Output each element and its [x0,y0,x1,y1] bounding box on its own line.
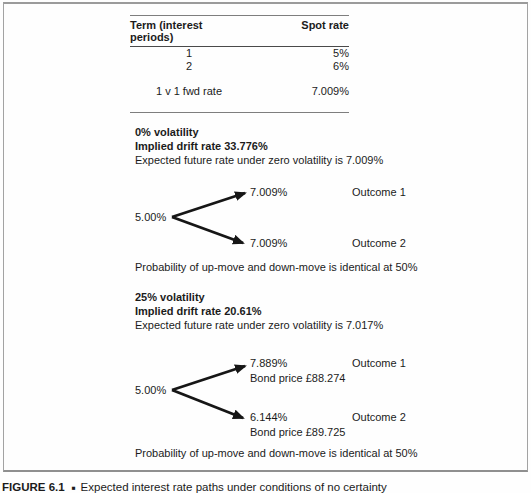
figure-page: Term (interest periods) Spot rate 1 5% 2… [0,0,531,493]
up-branch-arrow [172,366,245,390]
figure-caption: FIGURE 6.1 ■ Expected interest rate path… [2,481,387,493]
term-value: 1 [130,47,248,60]
square-bullet-icon: ■ [72,482,76,493]
vol0-expected: Expected future rate under zero volatili… [135,154,383,167]
vol0-up-outcome: Outcome 1 [352,186,406,199]
vol0-tree-arrows [166,185,254,249]
vol0-down-rate: 7.009% [250,237,287,250]
vol0-up-rate: 7.009% [250,186,287,199]
down-branch-arrow [172,390,243,418]
table-row-forward-rate: 1 v 1 fwd rate 7.009% [130,85,349,98]
table-row: 2 6% [130,60,349,73]
table-row: 1 5% [130,47,349,60]
vol0-drift: Implied drift rate 33.776% [135,140,268,153]
vol0-probability: Probability of up-move and down-move is … [135,261,417,274]
vol25-down-outcome: Outcome 2 [352,411,406,424]
vol0-root-rate: 5.00% [135,211,166,224]
table-bottom-rule [130,112,349,113]
vol25-title: 25% volatility [135,291,205,304]
figure-caption-text: Expected interest rate paths under condi… [81,481,387,493]
vol25-down-bond-price: Bond price £89.725 [250,426,345,439]
spot-rate-value: 5% [248,47,349,60]
term-value: 2 [130,60,248,73]
col-header-term: Term (interest periods) [130,19,248,43]
vol0-title: 0% volatility [135,126,199,139]
table-header-row: Term (interest periods) Spot rate [130,16,349,47]
up-branch-arrow [172,193,245,217]
vol25-down-rate: 6.144% [250,411,287,424]
col-header-spot-rate: Spot rate [248,19,349,31]
vol0-down-outcome: Outcome 2 [352,237,406,250]
vol25-up-rate: 7.889% [250,357,287,370]
vol25-drift: Implied drift rate 20.61% [135,305,262,318]
forward-rate-label: 1 v 1 fwd rate [130,85,248,98]
vol25-tree-arrows [166,358,254,422]
vol25-expected: Expected future rate under zero volatili… [135,319,383,332]
vol25-probability: Probability of up-move and down-move is … [135,447,417,460]
vol25-root-rate: 5.00% [135,384,166,397]
vol25-up-outcome: Outcome 1 [352,357,406,370]
spot-rate-value: 6% [248,60,349,73]
figure-caption-label: FIGURE 6.1 [2,481,65,493]
vol25-up-bond-price: Bond price £88.274 [250,372,345,385]
forward-rate-value: 7.009% [248,85,349,98]
down-branch-arrow [172,217,243,243]
spot-rate-table: Term (interest periods) Spot rate 1 5% 2… [130,15,349,113]
